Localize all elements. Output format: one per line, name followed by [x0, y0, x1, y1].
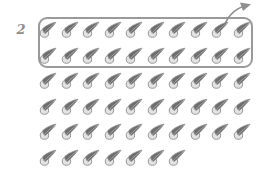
- seed-teardrop-icon[interactable]: [103, 119, 125, 145]
- seed-teardrop-icon[interactable]: [232, 119, 254, 145]
- seed-teardrop-icon[interactable]: [124, 145, 146, 171]
- group-count-label: 2: [10, 18, 32, 42]
- seed-teardrop-icon[interactable]: [189, 43, 211, 69]
- seed-teardrop-icon[interactable]: [146, 17, 168, 43]
- seed-teardrop-icon[interactable]: [167, 94, 189, 120]
- seed-teardrop-icon[interactable]: [103, 94, 125, 120]
- seed-teardrop-icon[interactable]: [210, 119, 232, 145]
- seed-teardrop-icon[interactable]: [38, 43, 60, 69]
- seed-teardrop-icon[interactable]: [81, 119, 103, 145]
- seed-teardrop-icon[interactable]: [38, 145, 60, 171]
- seed-row: [38, 17, 253, 43]
- seed-teardrop-icon[interactable]: [60, 119, 82, 145]
- seed-teardrop-icon[interactable]: [146, 145, 168, 171]
- seed-row: [38, 43, 253, 69]
- seed-teardrop-icon[interactable]: [232, 94, 254, 120]
- seed-teardrop-icon[interactable]: [38, 94, 60, 120]
- seed-teardrop-icon[interactable]: [60, 17, 82, 43]
- seed-teardrop-icon[interactable]: [103, 43, 125, 69]
- seed-teardrop-icon[interactable]: [60, 68, 82, 94]
- seed-teardrop-icon[interactable]: [103, 68, 125, 94]
- seed-teardrop-icon[interactable]: [124, 94, 146, 120]
- seed-teardrop-icon[interactable]: [60, 43, 82, 69]
- seed-teardrop-icon[interactable]: [232, 17, 254, 43]
- seed-teardrop-icon[interactable]: [146, 94, 168, 120]
- seed-teardrop-icon[interactable]: [38, 119, 60, 145]
- seed-teardrop-icon[interactable]: [232, 68, 254, 94]
- seed-object-grid: [38, 17, 253, 170]
- seed-teardrop-icon[interactable]: [81, 17, 103, 43]
- seed-row: [38, 119, 253, 145]
- worksheet-canvas: 2: [0, 0, 265, 177]
- seed-teardrop-icon[interactable]: [189, 94, 211, 120]
- seed-teardrop-icon[interactable]: [232, 43, 254, 69]
- seed-teardrop-icon[interactable]: [210, 17, 232, 43]
- seed-teardrop-icon[interactable]: [60, 145, 82, 171]
- seed-row: [38, 145, 253, 171]
- seed-teardrop-icon[interactable]: [146, 68, 168, 94]
- seed-teardrop-icon[interactable]: [81, 145, 103, 171]
- seed-teardrop-icon[interactable]: [210, 68, 232, 94]
- seed-teardrop-icon[interactable]: [124, 43, 146, 69]
- seed-teardrop-icon[interactable]: [189, 68, 211, 94]
- seed-teardrop-icon[interactable]: [38, 68, 60, 94]
- seed-teardrop-icon[interactable]: [103, 145, 125, 171]
- seed-teardrop-icon[interactable]: [60, 94, 82, 120]
- seed-teardrop-icon[interactable]: [146, 119, 168, 145]
- seed-teardrop-icon[interactable]: [81, 94, 103, 120]
- seed-teardrop-icon[interactable]: [210, 94, 232, 120]
- seed-row: [38, 94, 253, 120]
- seed-teardrop-icon[interactable]: [210, 43, 232, 69]
- seed-teardrop-icon[interactable]: [38, 17, 60, 43]
- seed-teardrop-icon[interactable]: [167, 68, 189, 94]
- seed-teardrop-icon[interactable]: [124, 68, 146, 94]
- seed-teardrop-icon[interactable]: [167, 17, 189, 43]
- seed-teardrop-icon[interactable]: [81, 68, 103, 94]
- seed-teardrop-icon[interactable]: [189, 119, 211, 145]
- seed-teardrop-icon[interactable]: [146, 43, 168, 69]
- seed-teardrop-icon[interactable]: [167, 119, 189, 145]
- seed-row: [38, 68, 253, 94]
- seed-teardrop-icon[interactable]: [103, 17, 125, 43]
- seed-teardrop-icon[interactable]: [167, 43, 189, 69]
- seed-teardrop-icon[interactable]: [124, 119, 146, 145]
- seed-teardrop-icon[interactable]: [124, 17, 146, 43]
- seed-teardrop-icon[interactable]: [81, 43, 103, 69]
- seed-teardrop-icon[interactable]: [167, 145, 189, 171]
- seed-teardrop-icon[interactable]: [189, 17, 211, 43]
